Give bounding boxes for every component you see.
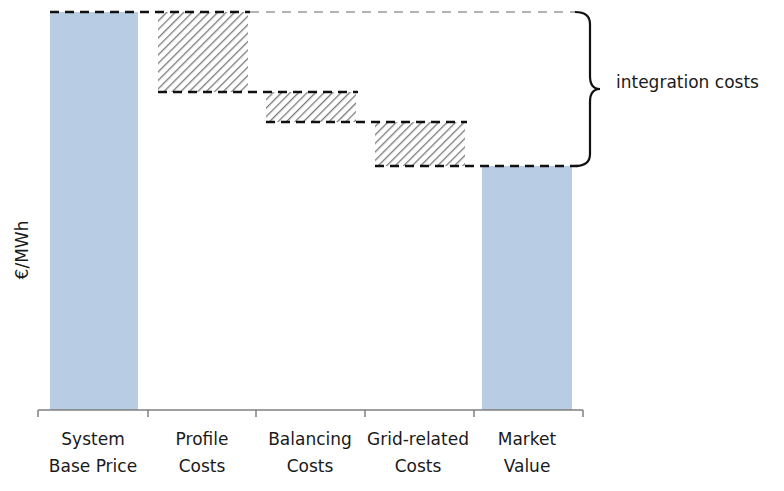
bar-market-value — [482, 166, 572, 410]
bar-profile-costs — [158, 12, 248, 92]
y-axis-label: €/MWh — [12, 221, 32, 280]
x-label-market-value-1: Market — [498, 429, 557, 449]
waterfall-chart: €/MWh integration costs System Base Pric… — [0, 0, 784, 491]
bar-balancing-costs — [266, 92, 356, 122]
bar-grid-related-costs — [375, 122, 465, 166]
integration-costs-label: integration costs — [616, 72, 759, 92]
bar-system-base-price — [50, 12, 138, 410]
x-label-balancing-costs-2: Costs — [287, 456, 334, 476]
x-label-system-base-price-2: Base Price — [49, 456, 137, 476]
x-label-profile-costs-2: Costs — [179, 456, 226, 476]
x-label-profile-costs-1: Profile — [176, 429, 229, 449]
x-label-balancing-costs-1: Balancing — [268, 429, 352, 449]
brace-icon — [575, 12, 600, 166]
x-label-grid-related-costs-1: Grid-related — [367, 429, 469, 449]
bars — [50, 12, 572, 410]
x-label-grid-related-costs-2: Costs — [395, 456, 442, 476]
x-axis — [38, 410, 583, 417]
x-label-system-base-price-1: System — [61, 429, 124, 449]
x-tick-labels: System Base Price Profile Costs Balancin… — [49, 429, 557, 476]
x-label-market-value-2: Value — [504, 456, 551, 476]
